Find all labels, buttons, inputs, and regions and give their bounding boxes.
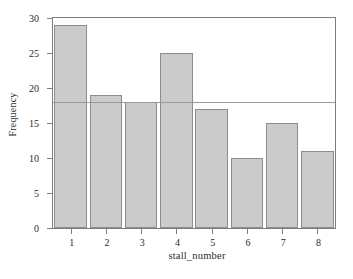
x-axis-tick-label: 5	[210, 236, 215, 249]
plot-surface: 051015202530 12345678	[53, 18, 335, 228]
x-axis-tick: 6	[247, 228, 248, 234]
bar	[125, 102, 157, 228]
y-axis-tick-label: 0	[34, 222, 39, 236]
y-axis-tick: 30	[47, 18, 53, 19]
x-axis-tick: 7	[282, 228, 283, 234]
bar-chart-figure: Frequency 051015202530 12345678 stall_nu…	[0, 0, 353, 279]
x-axis-tick: 5	[212, 228, 213, 234]
expected-frequency-reference-line	[53, 102, 335, 103]
bar	[90, 95, 122, 228]
y-axis-tick-label: 15	[29, 117, 39, 131]
y-axis-tick: 0	[47, 228, 53, 229]
bar	[266, 123, 298, 228]
y-axis-tick-label: 5	[34, 187, 39, 201]
x-axis-title: stall_number	[58, 250, 336, 261]
x-axis-tick-label: 4	[175, 236, 180, 249]
x-axis-tick: 4	[176, 228, 177, 234]
x-axis-tick-label: 1	[69, 236, 74, 249]
x-axis-tick-label: 8	[316, 236, 321, 249]
x-axis-tick: 3	[141, 228, 142, 234]
y-axis-title-text: Frequency	[7, 92, 18, 136]
bar	[195, 109, 227, 228]
bar	[160, 53, 192, 228]
y-axis-tick: 15	[47, 123, 53, 124]
x-axis-tick-label: 3	[140, 236, 145, 249]
y-axis-tick-label: 20	[29, 82, 39, 96]
x-axis-tick: 1	[71, 228, 72, 234]
y-axis-tick: 25	[47, 53, 53, 54]
x-axis-tick-label: 7	[281, 236, 286, 249]
x-axis-tick: 2	[106, 228, 107, 234]
y-axis-tick-label: 30	[29, 12, 39, 26]
y-axis-title: Frequency	[4, 0, 20, 229]
y-axis-tick: 20	[47, 88, 53, 89]
x-axis-tick-label: 6	[245, 236, 250, 249]
bar	[54, 25, 86, 228]
y-axis-tick: 5	[47, 193, 53, 194]
x-axis-tick-label: 2	[104, 236, 109, 249]
y-axis-tick-label: 25	[29, 47, 39, 61]
bar	[301, 151, 333, 228]
y-axis-tick: 10	[47, 158, 53, 159]
bar	[231, 158, 263, 228]
plot-area: 051015202530 12345678	[52, 17, 336, 229]
y-axis-tick-label: 10	[29, 152, 39, 166]
x-axis-tick: 8	[317, 228, 318, 234]
